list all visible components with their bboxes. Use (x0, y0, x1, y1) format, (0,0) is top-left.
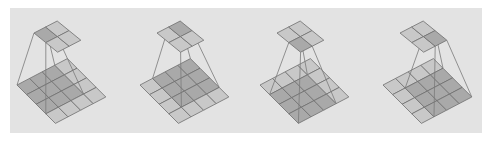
convolution-diagram (0, 0, 492, 145)
input-grid (17, 59, 106, 124)
input-grid (383, 59, 472, 124)
output-grid (157, 21, 204, 52)
panel-4 (383, 21, 472, 123)
output-grid (277, 21, 324, 52)
output-grid (400, 21, 447, 52)
input-grid (260, 59, 349, 124)
input-grid (140, 59, 229, 124)
panel-2 (140, 21, 229, 123)
panel-1 (17, 21, 106, 123)
panel-3 (260, 21, 349, 123)
output-grid (34, 21, 81, 52)
